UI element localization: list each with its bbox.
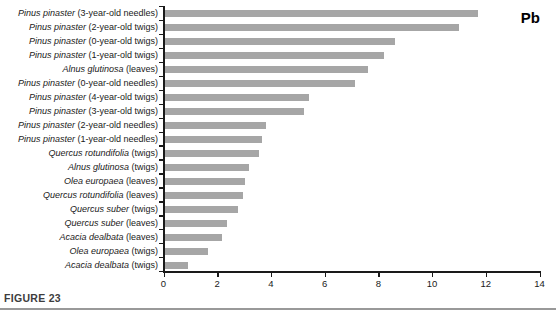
y-tick (159, 145, 163, 146)
bar (164, 248, 208, 255)
figure-23: Pinus pinaster (3-year-old needles) Pinu… (0, 0, 556, 319)
category-part: (twigs) (129, 260, 158, 270)
category-label: Quercus rotundifolia (leaves) (0, 191, 164, 200)
bar-track (164, 188, 540, 202)
category-label: Acacia dealbata (leaves) (0, 233, 164, 242)
category-label: Pinus pinaster (4-year-old twigs) (0, 93, 164, 102)
category-part: (1-year-old twigs) (86, 50, 158, 60)
chart-title: Pb (521, 9, 540, 26)
chart-row: Olea europaea (twigs) (0, 244, 540, 258)
bar-track (164, 91, 540, 105)
category-part: (2-year-old twigs) (86, 22, 158, 32)
category-part: (0-year-old needles) (75, 78, 158, 88)
y-tick (159, 132, 163, 133)
x-tick-label: 12 (476, 278, 496, 289)
category-part: (1-year-old needles) (75, 134, 158, 144)
x-tick (486, 273, 487, 277)
chart-row: Quercus suber (twigs) (0, 202, 540, 216)
bar (164, 178, 245, 185)
category-part: (3-year-old twigs) (86, 106, 158, 116)
category-species: Quercus suber (70, 204, 129, 214)
chart-row: Pinus pinaster (2-year-old twigs) (0, 21, 540, 35)
category-species: Pinus pinaster (18, 120, 75, 130)
y-tick (159, 90, 163, 91)
category-label: Pinus pinaster (2-year-old needles) (0, 121, 164, 130)
category-part: (2-year-old needles) (75, 120, 158, 130)
bar (164, 122, 266, 129)
category-label: Alnus glutinosa (leaves) (0, 65, 164, 74)
chart-row: Olea europaea (leaves) (0, 174, 540, 188)
x-tick-label: 6 (315, 278, 335, 289)
category-part: (twigs) (129, 246, 158, 256)
category-part: (0-year-old twigs) (86, 36, 158, 46)
category-species: Pinus pinaster (29, 36, 86, 46)
x-tick (325, 273, 326, 277)
bar-track (164, 35, 540, 49)
y-axis-line (163, 6, 165, 273)
caption-divider (0, 308, 556, 310)
y-tick (159, 243, 163, 244)
x-tick-label: 2 (207, 278, 227, 289)
y-tick (159, 76, 163, 77)
category-label: Olea europaea (twigs) (0, 247, 164, 256)
category-species: Pinus pinaster (29, 50, 86, 60)
bar-track (164, 63, 540, 77)
chart-row: Pinus pinaster (3-year-old needles) (0, 7, 540, 21)
y-tick (159, 104, 163, 105)
y-tick (159, 271, 163, 272)
category-label: Pinus pinaster (3-year-old needles) (0, 9, 164, 18)
y-tick (159, 48, 163, 49)
bar (164, 80, 355, 87)
bar (164, 136, 262, 143)
y-tick (159, 201, 163, 202)
bar-track (164, 174, 540, 188)
chart-row: Pinus pinaster (0-year-old twigs) (0, 35, 540, 49)
bar-track (164, 119, 540, 133)
bar (164, 206, 238, 213)
category-species: Alnus glutinosa (62, 64, 123, 74)
category-species: Pinus pinaster (29, 92, 86, 102)
x-tick-label: 10 (422, 278, 442, 289)
x-tick-label: 8 (368, 278, 388, 289)
x-axis-line (163, 271, 541, 273)
chart-rows: Pinus pinaster (3-year-old needles) Pinu… (0, 7, 540, 272)
bar-track (164, 105, 540, 119)
chart-row: Quercus suber (leaves) (0, 216, 540, 230)
x-tick (378, 273, 379, 277)
bar (164, 234, 222, 241)
category-species: Olea europaea (69, 246, 129, 256)
category-part: (twigs) (129, 204, 158, 214)
chart-row: Pinus pinaster (0-year-old needles) (0, 77, 540, 91)
bar (164, 10, 478, 17)
category-label: Quercus rotundifolia (twigs) (0, 149, 164, 158)
bar-track (164, 202, 540, 216)
category-part: (twigs) (129, 148, 158, 158)
bar (164, 150, 259, 157)
category-label: Pinus pinaster (0-year-old needles) (0, 79, 164, 88)
category-species: Pinus pinaster (29, 22, 86, 32)
category-species: Acacia dealbata (65, 260, 129, 270)
y-tick (159, 257, 163, 258)
bar (164, 94, 309, 101)
x-tick-label: 4 (261, 278, 281, 289)
category-label: Pinus pinaster (1-year-old needles) (0, 135, 164, 144)
chart-row: Pinus pinaster (4-year-old twigs) (0, 91, 540, 105)
category-species: Quercus suber (64, 218, 123, 228)
bar (164, 192, 243, 199)
y-tick (159, 20, 163, 21)
category-species: Pinus pinaster (18, 134, 75, 144)
bar (164, 164, 249, 171)
x-tick (540, 273, 541, 277)
bar-track (164, 230, 540, 244)
chart-row: Pinus pinaster (3-year-old twigs) (0, 105, 540, 119)
bar-track (164, 160, 540, 174)
x-tick (164, 273, 165, 277)
chart-row: Alnus glutinosa (twigs) (0, 160, 540, 174)
bar (164, 66, 368, 73)
category-label: Pinus pinaster (0-year-old twigs) (0, 37, 164, 46)
category-label: Acacia dealbata (twigs) (0, 261, 164, 270)
category-species: Olea europaea (64, 176, 124, 186)
x-tick (217, 273, 218, 277)
category-part: (3-year-old needles) (75, 8, 158, 18)
category-part: (twigs) (129, 162, 158, 172)
